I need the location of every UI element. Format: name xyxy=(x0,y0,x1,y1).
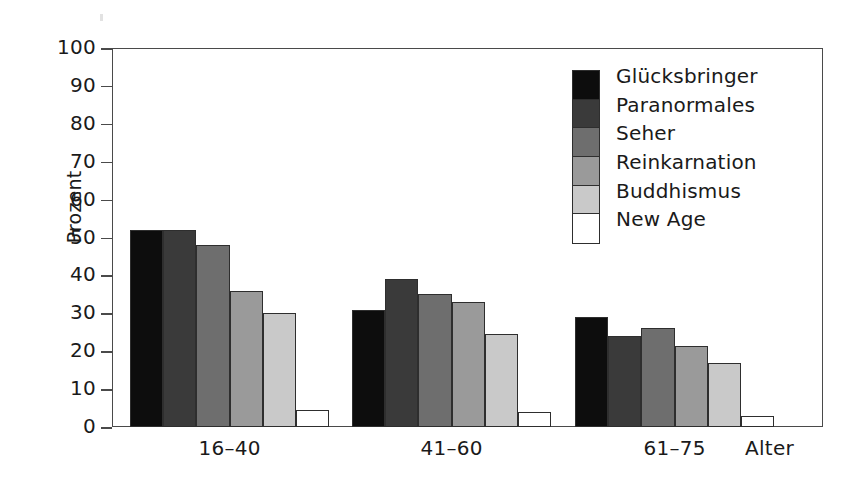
legend-label: Glücksbringer xyxy=(616,62,758,91)
legend-swatch xyxy=(573,128,599,157)
bar xyxy=(518,412,551,427)
legend-swatch xyxy=(573,186,599,215)
legend-label: Reinkarnation xyxy=(616,148,758,177)
legend-swatch xyxy=(573,214,599,243)
bar xyxy=(418,294,451,427)
bar xyxy=(641,328,674,427)
bar xyxy=(296,410,329,427)
legend-label: Seher xyxy=(616,119,758,148)
bar xyxy=(575,317,608,427)
bar xyxy=(230,291,263,427)
bar xyxy=(263,313,296,427)
bar xyxy=(675,346,708,427)
legend-swatch xyxy=(573,71,599,100)
bar xyxy=(741,416,774,427)
legend-swatch-column xyxy=(572,70,600,244)
bar xyxy=(485,334,518,427)
legend-swatch xyxy=(573,100,599,129)
bar xyxy=(196,245,229,427)
bar xyxy=(130,230,163,427)
legend-swatch xyxy=(573,157,599,186)
x-tick-label: 41–60 xyxy=(392,436,512,460)
legend-label: Buddhismus xyxy=(616,177,758,206)
bar-chart: 0102030405060708090100 Prozent 16–4041–6… xyxy=(0,0,854,489)
bar xyxy=(163,230,196,427)
bar xyxy=(608,336,641,427)
legend-label-column: GlücksbringerParanormalesSeherReinkarnat… xyxy=(616,62,758,234)
x-axis-label: Alter xyxy=(745,436,794,460)
x-tick-label: 61–75 xyxy=(615,436,735,460)
bar xyxy=(708,363,741,427)
legend-label: Paranormales xyxy=(616,91,758,120)
x-tick-label: 16–40 xyxy=(170,436,290,460)
bar xyxy=(352,310,385,427)
legend-label: New Age xyxy=(616,205,758,234)
bar xyxy=(452,302,485,427)
bar xyxy=(385,279,418,427)
